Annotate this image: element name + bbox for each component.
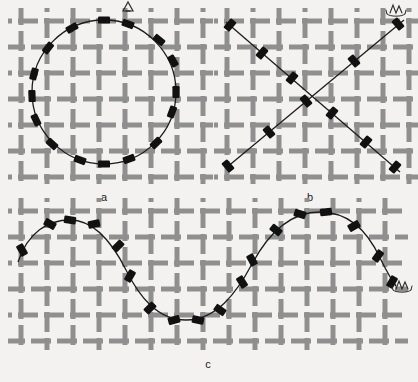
panel-c-label: c (205, 358, 211, 370)
figure-root: a (0, 0, 418, 382)
mesh-figure-svg: a (0, 0, 418, 382)
panel-a-label: a (101, 191, 108, 203)
